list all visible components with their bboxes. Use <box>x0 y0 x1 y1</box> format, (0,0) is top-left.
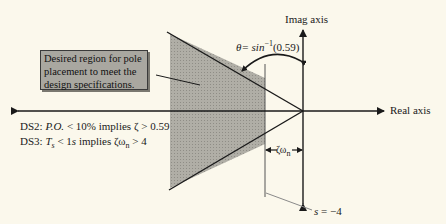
spec-ds2: DS2: P.O. < 10% implies ζ > 0.59 <box>20 120 169 132</box>
pole-placement-diagram <box>0 0 446 224</box>
zeta-omega-label: ζωn <box>276 145 290 158</box>
spec-ds3: DS3: Ts < 1s implies ζωn > 4 <box>20 135 147 150</box>
desired-region-callout: Desired region for pole placement to mee… <box>40 50 148 90</box>
theta-arc <box>242 54 301 71</box>
s-label-leader <box>266 193 312 210</box>
theta-label: θ= sin−1(0.59) <box>236 40 300 53</box>
imag-axis-label: Imag axis <box>285 14 328 25</box>
real-axis-label: Real axis <box>390 105 431 116</box>
s-minus-4-label: s = −4 <box>314 206 342 217</box>
